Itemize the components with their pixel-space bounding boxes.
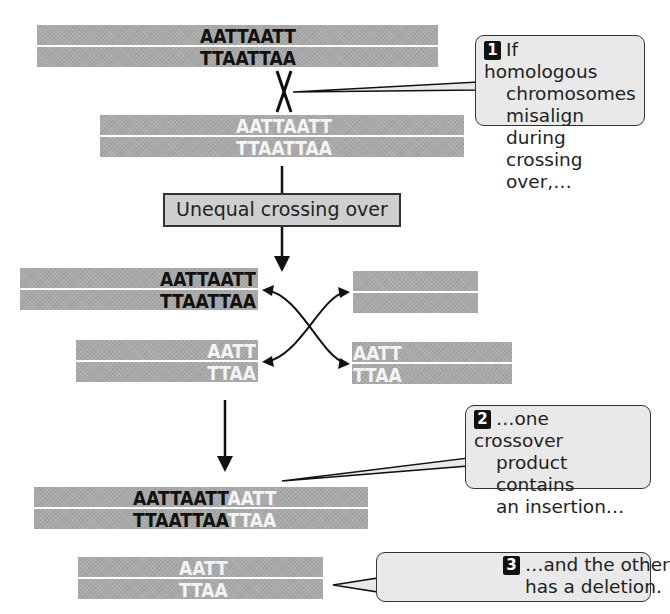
product-right-bottom: AATT TTAA xyxy=(352,342,512,384)
sequence-strand-2: TTAATTAA xyxy=(200,48,296,68)
callout-text-line: crossing over,… xyxy=(484,149,636,193)
sequence-strand-2: TTAATTAA xyxy=(160,291,256,311)
inserted-segment: AATT xyxy=(228,487,277,509)
sequence-strand-1: AATTAATT xyxy=(236,116,332,136)
insertion-product-chromosome: AATTAATTAATT TTAATTAATTAA xyxy=(34,487,368,529)
callout-1: 1If homologous chromosomes misalign duri… xyxy=(475,35,645,126)
original-segment: AATTAATT xyxy=(133,487,228,509)
callout-text-line: chromosomes xyxy=(484,83,636,105)
sequence-strand-2: TTAATTAATTAA xyxy=(133,510,276,530)
callout-text-line: has a deletion. xyxy=(503,576,670,598)
sequence-strand-1: AATTAATT xyxy=(160,269,256,289)
sequence-strand-2: TTAA xyxy=(353,365,402,385)
top-chromosome: AATTAATT TTAATTAA xyxy=(37,25,438,67)
product-right-top xyxy=(353,271,478,313)
strand xyxy=(353,293,478,313)
inserted-segment: TTAA xyxy=(228,509,277,531)
callout-text-line: product contains xyxy=(474,452,642,496)
crossover-x-marker xyxy=(277,71,291,112)
sequence-strand-1: AATT xyxy=(207,341,256,361)
step-number-badge: 1 xyxy=(484,41,501,60)
sequence-strand-1: AATTAATT xyxy=(200,26,296,46)
step-number-badge: 2 xyxy=(474,410,491,429)
sequence-strand-1: AATT xyxy=(353,343,402,363)
callout-text-line: …and the other xyxy=(525,554,670,575)
callout-3-body: 3…and the other has a deletion. xyxy=(377,553,650,601)
callout-2: 2…one crossover product contains an inse… xyxy=(465,405,651,489)
callout-3: 3…and the other has a deletion. xyxy=(376,552,651,602)
process-label-box: Unequal crossing over xyxy=(163,193,401,227)
original-segment: TTAATTAA xyxy=(133,509,228,531)
sequence-strand-1: AATTAATTAATT xyxy=(133,488,276,508)
sequence-strand-2: TTAA xyxy=(179,580,228,600)
sequence-strand-2: TTAA xyxy=(207,363,256,383)
sequence-strand-1: AATT xyxy=(179,558,228,578)
product-left-top: AATTAATT TTAATTAA xyxy=(20,268,258,310)
strand xyxy=(353,271,478,291)
product-left-bottom: AATT TTAA xyxy=(76,340,258,382)
callout-text-line: misalign during xyxy=(484,105,636,149)
deletion-product-chromosome: AATT TTAA xyxy=(78,557,323,599)
step-number-badge: 3 xyxy=(503,556,520,575)
callout-3-text: 3…and the other has a deletion. xyxy=(503,554,670,598)
callout-text-line: an insertion… xyxy=(474,496,642,518)
misaligned-chromosome: AATTAATT TTAATTAA xyxy=(100,115,464,157)
sequence-strand-2: TTAATTAA xyxy=(236,138,332,158)
